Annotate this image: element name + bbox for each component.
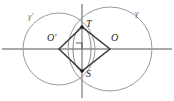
gamma-curve-label: γ (135, 9, 139, 18)
right-angle-marker (76, 43, 82, 49)
point-label-O-prime: O′ (47, 33, 56, 43)
figure-canvas (0, 0, 174, 101)
vertex-dot-S (80, 69, 84, 73)
point-label-S: S (86, 69, 91, 79)
point-label-O: O (111, 33, 118, 43)
point-label-T: T (86, 19, 92, 29)
gamma-prime-curve-label: γ′ (28, 12, 34, 21)
vertex-dot-T (80, 25, 84, 29)
geometry-figure: γ′ γ T S O′ O (0, 0, 174, 101)
